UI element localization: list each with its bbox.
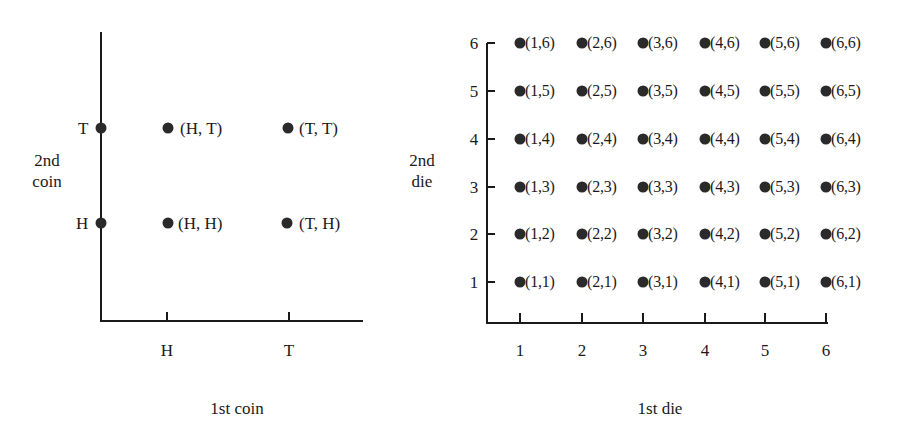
dice-point-label: (6,3) <box>831 179 861 195</box>
dice-point-label: (1,6) <box>525 35 555 51</box>
coin-x-tick-h <box>166 312 168 321</box>
dice-x-tick-label-5: 5 <box>761 342 770 359</box>
dice-point <box>515 182 526 193</box>
dice-x-tick-4 <box>704 313 706 322</box>
dice-point <box>638 38 649 49</box>
dice-y-axis-title-line1: 2nd <box>400 150 444 171</box>
dice-y-tick-5 <box>487 90 495 92</box>
dice-point-label: (4,1) <box>710 274 740 290</box>
dice-point <box>760 134 771 145</box>
dice-point <box>760 277 771 288</box>
coin-x-axis <box>100 320 363 322</box>
dice-point <box>821 277 832 288</box>
dice-point <box>577 86 588 97</box>
dice-point-label: (4,4) <box>710 131 740 147</box>
dice-point <box>821 134 832 145</box>
dice-point <box>760 182 771 193</box>
dice-y-tick-3 <box>487 186 495 188</box>
dice-y-tick-label-6: 6 <box>470 35 479 52</box>
coin-y-tick-t: T <box>78 120 88 137</box>
dice-point <box>577 277 588 288</box>
coin-y-axis-title-line2: coin <box>24 171 70 192</box>
dice-x-axis <box>486 322 828 324</box>
dice-point-label: (3,1) <box>648 274 678 290</box>
dice-point-label: (1,5) <box>525 83 555 99</box>
dice-point <box>577 229 588 240</box>
dice-point-label: (6,4) <box>831 131 861 147</box>
dice-x-tick-5 <box>764 313 766 322</box>
coin-point-label-th: (T, H) <box>299 215 340 232</box>
dice-point-label: (1,3) <box>525 179 555 195</box>
dice-point-label: (5,6) <box>770 35 800 51</box>
dice-point <box>515 277 526 288</box>
dice-point <box>577 182 588 193</box>
dice-point-label: (3,6) <box>648 35 678 51</box>
dice-x-tick-6 <box>825 313 827 322</box>
dice-point-label: (4,3) <box>710 179 740 195</box>
dice-y-tick-1 <box>487 281 495 283</box>
dice-point-label: (6,2) <box>831 226 861 242</box>
dice-point <box>821 38 832 49</box>
dice-point <box>821 86 832 97</box>
coin-point-th <box>282 218 293 229</box>
dice-y-tick-label-4: 4 <box>470 131 479 148</box>
dice-point-label: (2,2) <box>587 226 617 242</box>
dice-point <box>821 229 832 240</box>
dice-point-label: (6,5) <box>831 83 861 99</box>
dice-point <box>577 134 588 145</box>
coin-point-ht <box>163 123 174 134</box>
dice-point-label: (4,6) <box>710 35 740 51</box>
dice-point-label: (6,1) <box>831 274 861 290</box>
coin-y-axis-title-line1: 2nd <box>24 150 70 171</box>
coin-y-axis-title: 2nd coin <box>24 150 70 193</box>
coin-x-tick-label-t: T <box>284 342 294 359</box>
dice-point <box>760 38 771 49</box>
dice-point-label: (5,4) <box>770 131 800 147</box>
dice-y-axis-title-line2: die <box>400 171 444 192</box>
dice-x-tick-label-2: 2 <box>578 342 587 359</box>
dice-point-label: (3,4) <box>648 131 678 147</box>
dice-point <box>515 86 526 97</box>
dice-point <box>760 229 771 240</box>
dice-x-tick-label-3: 3 <box>639 342 648 359</box>
dice-y-tick-label-5: 5 <box>470 83 479 100</box>
dice-point <box>638 182 649 193</box>
dice-point-label: (3,5) <box>648 83 678 99</box>
coin-x-tick-t <box>288 312 290 321</box>
dice-point-label: (1,1) <box>525 274 555 290</box>
dice-point-label: (5,3) <box>770 179 800 195</box>
dice-x-tick-label-6: 6 <box>822 342 831 359</box>
dice-point <box>577 38 588 49</box>
dice-y-tick-label-2: 2 <box>470 226 479 243</box>
dice-y-tick-2 <box>487 233 495 235</box>
dice-point <box>700 229 711 240</box>
dice-point-label: (2,3) <box>587 179 617 195</box>
dice-point <box>638 134 649 145</box>
dice-x-tick-2 <box>581 313 583 322</box>
dice-point <box>638 229 649 240</box>
coin-axis-point-h <box>96 218 107 229</box>
dice-point-label: (4,2) <box>710 226 740 242</box>
dice-point <box>700 277 711 288</box>
coin-point-hh <box>163 218 174 229</box>
dice-x-axis-title: 1st die <box>620 398 700 419</box>
dice-y-tick-6 <box>487 42 495 44</box>
coin-y-tick-h: H <box>76 215 88 232</box>
coin-point-label-hh: (H, H) <box>178 215 222 232</box>
dice-x-tick-label-1: 1 <box>516 342 525 359</box>
dice-point <box>821 182 832 193</box>
dice-x-tick-label-4: 4 <box>701 342 710 359</box>
coin-point-tt <box>283 123 294 134</box>
dice-point <box>700 134 711 145</box>
dice-point-label: (5,1) <box>770 274 800 290</box>
dice-point-label: (5,2) <box>770 226 800 242</box>
dice-point <box>700 38 711 49</box>
dice-point-label: (6,6) <box>831 35 861 51</box>
dice-point-label: (3,2) <box>648 226 678 242</box>
coin-y-axis <box>100 32 102 322</box>
dice-point-label: (4,5) <box>710 83 740 99</box>
dice-point <box>638 277 649 288</box>
dice-point-label: (1,2) <box>525 226 555 242</box>
dice-point <box>760 86 771 97</box>
dice-point-label: (5,5) <box>770 83 800 99</box>
